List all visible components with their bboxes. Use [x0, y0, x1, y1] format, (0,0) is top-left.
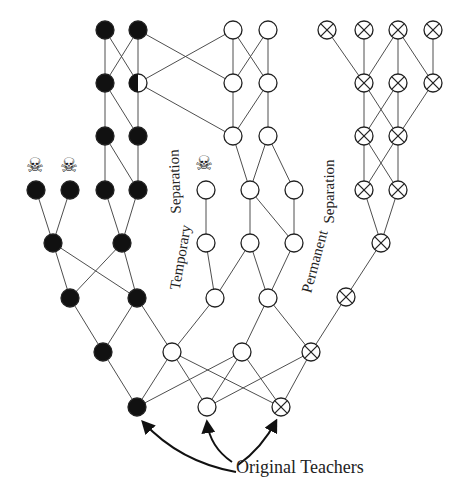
black-node	[128, 289, 146, 307]
teacher-lineage-diagram	[0, 0, 466, 494]
lineage-nodes	[27, 21, 442, 416]
open-node	[259, 21, 277, 39]
original-teachers-caption: Original Teachers	[236, 457, 364, 478]
crossed-node	[389, 181, 407, 199]
lineage-edge	[268, 298, 311, 352]
lineage-edge	[215, 243, 250, 298]
crossed-node	[355, 74, 373, 92]
crossed-node	[355, 21, 373, 39]
black-node	[129, 181, 147, 199]
lineage-edge	[103, 352, 137, 407]
lineage-edge	[207, 352, 242, 407]
black-node	[96, 21, 114, 39]
crossed-node	[389, 127, 407, 145]
black-node	[113, 234, 131, 252]
black-node	[44, 234, 62, 252]
open-node	[233, 343, 251, 361]
crossed-node	[272, 398, 290, 416]
black-node	[27, 181, 45, 199]
arrow-to-b8a	[143, 422, 236, 472]
open-node	[197, 181, 215, 199]
crossed-node	[424, 21, 442, 39]
black-node	[61, 289, 79, 307]
lineage-edge	[242, 352, 281, 407]
open-node	[206, 289, 224, 307]
lineage-edge	[172, 298, 215, 352]
lineage-edge	[137, 352, 172, 407]
crossed-node	[389, 74, 407, 92]
crossed-node	[302, 343, 320, 361]
lineage-edge	[311, 297, 346, 352]
black-node	[61, 181, 79, 199]
open-node	[241, 181, 259, 199]
lineage-edge	[137, 298, 172, 352]
black-node	[96, 127, 114, 145]
crossed-node	[355, 127, 373, 145]
open-node	[198, 398, 216, 416]
crossed-node	[372, 234, 390, 252]
skull-crossbones-icon: ☠	[26, 155, 44, 175]
open-node	[259, 127, 277, 145]
skull-crossbones-icon: ☠	[195, 153, 213, 173]
lineage-edge	[207, 352, 311, 407]
temporary-separation-label: Separation	[165, 149, 184, 214]
open-node	[259, 289, 277, 307]
black-node	[128, 398, 146, 416]
open-node	[163, 343, 181, 361]
crossed-node	[337, 288, 355, 306]
lineage-edge	[327, 30, 364, 83]
permanent-separation-label: Separation	[321, 159, 338, 223]
crossed-node	[355, 181, 373, 199]
open-node	[241, 234, 259, 252]
black-node	[129, 21, 147, 39]
half-node	[129, 74, 147, 92]
arrow-to-o8a	[207, 422, 232, 462]
black-node	[129, 127, 147, 145]
open-node	[224, 74, 242, 92]
black-node	[96, 74, 114, 92]
lineage-edge	[138, 83, 233, 136]
crossed-node	[318, 21, 336, 39]
black-node	[94, 343, 112, 361]
skull-crossbones-icon: ☠	[60, 155, 78, 175]
crossed-node	[389, 21, 407, 39]
open-node	[259, 74, 277, 92]
crossed-node	[424, 74, 442, 92]
lineage-edge	[346, 243, 381, 297]
lineage-edge	[172, 352, 207, 407]
black-node	[96, 181, 114, 199]
open-node	[197, 234, 215, 252]
lineage-edge	[250, 190, 294, 243]
lineage-edge	[70, 243, 122, 298]
open-node	[285, 234, 303, 252]
open-node	[285, 181, 303, 199]
open-node	[224, 127, 242, 145]
open-node	[224, 21, 242, 39]
